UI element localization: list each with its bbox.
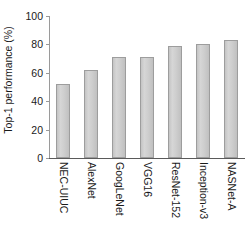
bar — [224, 40, 238, 158]
y-axis-tick-label: 0 — [37, 152, 43, 164]
bar — [56, 84, 70, 158]
y-axis-tick-mark — [46, 130, 49, 131]
x-axis-tick-label: Inception-v3 — [197, 162, 210, 242]
x-axis-tick-label: ResNet-152 — [169, 162, 182, 242]
y-axis-title: Top-1 performance (%) — [0, 0, 16, 160]
y-axis-tick-mark — [46, 16, 49, 17]
bar — [140, 57, 154, 158]
bar — [196, 44, 210, 158]
bar-chart: Top-1 performance (%) 020406080100 NEC-U… — [0, 0, 252, 242]
y-axis-title-text: Top-1 performance (%) — [2, 26, 14, 133]
y-axis-tick-label: 100 — [25, 10, 43, 22]
x-axis-tick-label: NEC-UIUC — [57, 162, 70, 242]
bar — [168, 46, 182, 158]
y-axis-tick-mark — [46, 158, 49, 159]
x-axis-line — [49, 158, 245, 159]
y-axis-tick-mark — [46, 44, 49, 45]
bars-layer — [49, 16, 245, 158]
bar — [84, 70, 98, 158]
plot-area — [49, 16, 245, 158]
y-axis-tick-mark — [46, 73, 49, 74]
x-axis-tick-label: VGG16 — [141, 162, 154, 242]
x-axis-tick-label: AlexNet — [85, 162, 98, 242]
y-axis-tick-label: 80 — [31, 38, 43, 50]
y-axis-tick-label: 60 — [31, 67, 43, 79]
x-axis-tick-label: NASNet-A — [225, 162, 238, 242]
bar — [112, 57, 126, 158]
y-axis-tick-mark — [46, 101, 49, 102]
y-axis-tick-labels: 020406080100 — [16, 0, 46, 170]
y-axis-tick-label: 40 — [31, 95, 43, 107]
x-axis-tick-labels: NEC-UIUCAlexNetGoogLeNetVGG16ResNet-152I… — [49, 160, 245, 242]
y-axis-tick-label: 20 — [31, 124, 43, 136]
x-axis-tick-label: GoogLeNet — [113, 162, 126, 242]
